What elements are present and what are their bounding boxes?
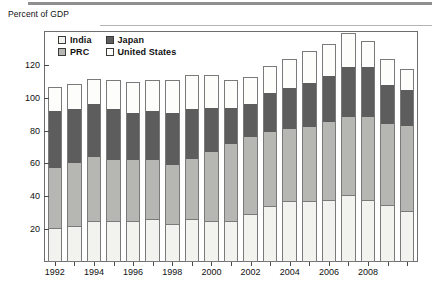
- bar-segment-japan[interactable]: [145, 110, 159, 160]
- bar-segment-india[interactable]: [380, 205, 394, 263]
- bar-segment-united-states[interactable]: [126, 82, 140, 113]
- bar-segment-japan[interactable]: [243, 103, 257, 137]
- bar-2000[interactable]: [204, 32, 218, 262]
- bar-segment-prc[interactable]: [282, 128, 296, 201]
- bar-segment-prc[interactable]: [126, 159, 140, 221]
- bar-segment-united-states[interactable]: [224, 80, 238, 107]
- bar-segment-japan[interactable]: [48, 110, 62, 169]
- bar-1994[interactable]: [87, 32, 101, 262]
- bar-segment-united-states[interactable]: [282, 59, 296, 88]
- bar-segment-india[interactable]: [224, 221, 238, 262]
- bar-segment-united-states[interactable]: [185, 75, 199, 109]
- bar-segment-india[interactable]: [126, 221, 140, 262]
- bar-1997[interactable]: [145, 32, 159, 262]
- bar-segment-prc[interactable]: [380, 123, 394, 205]
- bar-segment-prc[interactable]: [302, 126, 316, 201]
- bar-segment-united-states[interactable]: [302, 51, 316, 83]
- bar-segment-japan[interactable]: [282, 87, 296, 129]
- bar-1995[interactable]: [106, 32, 120, 262]
- bar-segment-united-states[interactable]: [165, 80, 179, 112]
- bar-segment-united-states[interactable]: [380, 59, 394, 85]
- bar-2007[interactable]: [341, 32, 355, 262]
- y-axis-tick-label: 120: [25, 60, 40, 70]
- bar-segment-united-states[interactable]: [204, 75, 218, 107]
- bar-segment-prc[interactable]: [400, 125, 414, 211]
- bar-segment-japan[interactable]: [106, 108, 120, 160]
- bar-2008[interactable]: [361, 32, 375, 262]
- bar-segment-japan[interactable]: [67, 108, 81, 163]
- bar-2006[interactable]: [322, 32, 336, 262]
- bar-1993[interactable]: [67, 32, 81, 262]
- bar-segment-india[interactable]: [185, 219, 199, 262]
- bar-segment-india[interactable]: [243, 214, 257, 262]
- y-axis-tick-mark: [44, 65, 49, 66]
- bar-1999[interactable]: [185, 32, 199, 262]
- bar-segment-japan[interactable]: [302, 82, 316, 127]
- bar-segment-united-states[interactable]: [243, 77, 257, 104]
- bar-segment-japan[interactable]: [126, 112, 140, 161]
- bar-segment-india[interactable]: [341, 195, 355, 262]
- bar-segment-united-states[interactable]: [400, 69, 414, 90]
- bar-segment-prc[interactable]: [67, 162, 81, 225]
- bar-segment-united-states[interactable]: [145, 80, 159, 111]
- bar-segment-japan[interactable]: [341, 66, 355, 118]
- bar-1992[interactable]: [48, 32, 62, 262]
- bar-segment-japan[interactable]: [400, 89, 414, 126]
- bar-segment-japan[interactable]: [263, 92, 277, 132]
- bar-segment-india[interactable]: [361, 200, 375, 262]
- bar-segment-japan[interactable]: [185, 108, 199, 158]
- bar-segment-india[interactable]: [145, 219, 159, 262]
- bar-segment-prc[interactable]: [165, 164, 179, 224]
- bar-segment-india[interactable]: [67, 226, 81, 262]
- bar-segment-japan[interactable]: [165, 112, 179, 166]
- bar-segment-india[interactable]: [87, 221, 101, 262]
- bar-segment-prc[interactable]: [341, 116, 355, 194]
- bar-segment-japan[interactable]: [322, 75, 336, 122]
- bar-segment-prc[interactable]: [106, 159, 120, 221]
- bar-1998[interactable]: [165, 32, 179, 262]
- bar-segment-united-states[interactable]: [263, 66, 277, 93]
- bar-segment-united-states[interactable]: [87, 79, 101, 105]
- bar-segment-united-states[interactable]: [67, 84, 81, 110]
- bar-segment-india[interactable]: [165, 224, 179, 262]
- bar-segment-india[interactable]: [282, 201, 296, 262]
- bar-segment-united-states[interactable]: [322, 44, 336, 76]
- bar-segment-japan[interactable]: [87, 103, 101, 157]
- bar-segment-prc[interactable]: [263, 131, 277, 206]
- bar-segment-japan[interactable]: [204, 107, 218, 152]
- bar-segment-india[interactable]: [302, 201, 316, 262]
- bar-segment-india[interactable]: [263, 206, 277, 262]
- bar-2004[interactable]: [282, 32, 296, 262]
- bar-2001[interactable]: [224, 32, 238, 262]
- bar-1996[interactable]: [126, 32, 140, 262]
- bar-segment-india[interactable]: [106, 221, 120, 262]
- bar-segment-japan[interactable]: [224, 107, 238, 144]
- bar-segment-prc[interactable]: [322, 121, 336, 199]
- bar-segment-india[interactable]: [48, 228, 62, 263]
- bar-segment-india[interactable]: [322, 200, 336, 262]
- bar-2009[interactable]: [380, 32, 394, 262]
- bar-segment-japan[interactable]: [361, 66, 375, 118]
- bar-segment-united-states[interactable]: [48, 87, 62, 111]
- x-axis-tick-mark: [211, 262, 212, 266]
- bar-segment-india[interactable]: [204, 221, 218, 262]
- bar-segment-india[interactable]: [400, 211, 414, 262]
- bar-segment-prc[interactable]: [87, 156, 101, 221]
- bar-segment-prc[interactable]: [145, 159, 159, 219]
- y-axis-tick-mark: [44, 229, 49, 230]
- bar-segment-prc[interactable]: [48, 167, 62, 227]
- bar-segment-prc[interactable]: [204, 151, 218, 221]
- bar-segment-prc[interactable]: [224, 143, 238, 221]
- bar-segment-prc[interactable]: [185, 158, 199, 220]
- bar-2005[interactable]: [302, 32, 316, 262]
- bar-segment-united-states[interactable]: [341, 33, 355, 67]
- bar-segment-united-states[interactable]: [361, 41, 375, 67]
- bar-segment-united-states[interactable]: [106, 80, 120, 109]
- bar-segment-prc[interactable]: [243, 136, 257, 214]
- bar-2002[interactable]: [243, 32, 257, 262]
- bar-segment-prc[interactable]: [361, 116, 375, 199]
- bar-segment-japan[interactable]: [380, 84, 394, 124]
- bar-2003[interactable]: [263, 32, 277, 262]
- title-underline-rule: [100, 25, 432, 26]
- bar-2010[interactable]: [400, 32, 414, 262]
